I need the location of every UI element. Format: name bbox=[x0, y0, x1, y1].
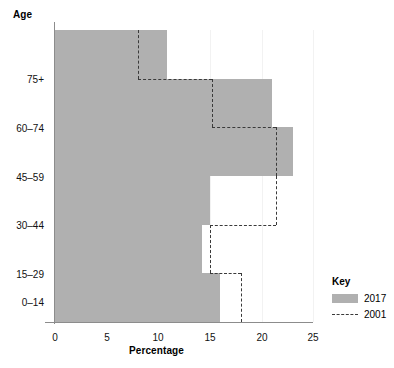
x-axis-title: Percentage bbox=[0, 345, 313, 356]
dash-2001-0-14-vertical bbox=[241, 273, 242, 322]
x-axis-line bbox=[45, 322, 313, 323]
gridline-20 bbox=[262, 30, 263, 322]
bar-2017-15-29 bbox=[55, 225, 202, 274]
x-tick-10: 10 bbox=[138, 327, 178, 345]
dash-2001-45-59-vertical bbox=[276, 127, 277, 176]
legend-item-2017: 2017 bbox=[332, 291, 394, 305]
y-tick-75plus: 75+ bbox=[0, 74, 44, 88]
x-tick-25: 25 bbox=[293, 327, 333, 345]
dash-2001-60-74-vertical bbox=[212, 79, 213, 128]
bar-2017-30-44 bbox=[55, 176, 210, 225]
y-tick-15-29: 15–29 bbox=[0, 269, 44, 283]
x-tick-15: 15 bbox=[190, 327, 230, 345]
y-tick-0-14: 0–14 bbox=[0, 297, 44, 311]
dash-2001-60-74-step bbox=[212, 127, 276, 128]
bar-2017-0-14 bbox=[55, 273, 220, 322]
dash-2001-15-29-step bbox=[210, 273, 241, 274]
x-tick-5: 5 bbox=[87, 327, 127, 345]
plot-area bbox=[55, 30, 313, 322]
y-axis-title: Age bbox=[13, 9, 32, 20]
legend-swatch-filled-icon bbox=[332, 294, 358, 303]
legend-title: Key bbox=[332, 276, 394, 287]
dash-2001-30-44-step bbox=[210, 225, 276, 226]
legend-label-2017: 2017 bbox=[364, 293, 386, 304]
population-pyramid-chart: Age 75+ 60–74 45–59 30–44 15–29 0–14 bbox=[0, 0, 394, 368]
dash-2001-30-44-vertical bbox=[276, 176, 277, 225]
bar-2017-60-74 bbox=[55, 79, 272, 128]
bar-2017-75plus bbox=[55, 30, 167, 79]
dash-2001-15-29-vertical bbox=[210, 225, 211, 274]
y-tick-45-59: 45–59 bbox=[0, 172, 44, 186]
bar-2017-45-59 bbox=[55, 127, 293, 176]
legend-item-2001: 2001 bbox=[332, 307, 394, 321]
x-tick-0: 0 bbox=[35, 327, 75, 345]
y-tick-60-74: 60–74 bbox=[0, 123, 44, 137]
y-tick-30-44: 30–44 bbox=[0, 220, 44, 234]
dash-2001-75plus-vertical bbox=[138, 30, 139, 79]
legend: Key 2017 2001 bbox=[332, 276, 394, 323]
dash-2001-75plus-step bbox=[138, 79, 212, 80]
legend-label-2001: 2001 bbox=[364, 309, 386, 320]
legend-swatch-dashed-icon bbox=[332, 314, 358, 315]
x-tick-20: 20 bbox=[242, 327, 282, 345]
gridline-25 bbox=[313, 30, 314, 322]
